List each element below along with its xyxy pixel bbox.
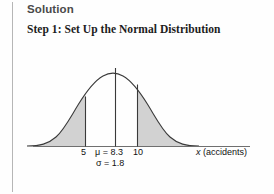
step-title: Step 1: Set Up the Normal Distribution [27,23,221,35]
normal-curve-svg [0,52,274,194]
tick-label-10: 10 [133,147,143,157]
x-axis-variable: x [196,147,201,157]
tick-label-5: 5 [81,147,86,157]
normal-distribution-figure: 5 μ = 8.3 10 σ = 1.8 x (accidents) [0,52,274,194]
left-tail-shaded-area [27,73,199,146]
solution-heading: Solution [27,3,74,15]
x-axis-label: x (accidents) [196,147,247,157]
mean-label: μ = 8.3 [95,147,123,157]
figure-panel: Solution Step 1: Set Up the Normal Distr… [0,0,274,194]
right-tail-shaded-area [27,73,199,146]
x-axis-units: (accidents) [203,147,247,157]
sigma-label: σ = 1.8 [96,158,124,168]
bell-curve-outline [27,73,199,146]
